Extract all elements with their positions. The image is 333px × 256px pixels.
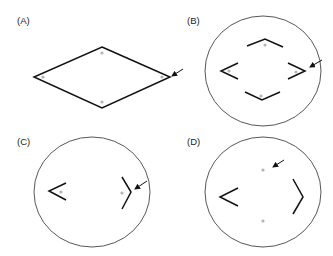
fixation-dot: [100, 100, 103, 103]
panel-c-shapes: [34, 137, 150, 247]
panel-b: (B): [187, 15, 322, 126]
panel-d: (D): [187, 136, 321, 247]
pointer-arrow-icon: [135, 181, 147, 189]
panel-a-shapes: [34, 47, 183, 108]
panel-c: (C): [17, 136, 150, 247]
panel-c-label: (C): [17, 136, 30, 147]
panel-d-label: (D): [187, 136, 200, 147]
panel-d-circle: [205, 137, 321, 247]
panel-a-label: (A): [17, 15, 30, 26]
panel-d-shapes: [205, 137, 321, 247]
fixation-dot: [41, 75, 44, 78]
fixation-dot: [261, 168, 264, 171]
fixation-dot: [259, 94, 262, 97]
fixation-dot: [261, 219, 264, 222]
panel-b-label: (B): [187, 15, 200, 26]
fixation-dot: [59, 190, 62, 193]
fixation-dot: [227, 69, 230, 72]
chevron-shape: [49, 183, 66, 200]
chevron-shape: [220, 188, 238, 206]
figure-canvas: (A) (B) (C) (D): [0, 0, 333, 256]
pointer-arrow-icon: [273, 160, 284, 167]
fixation-dot: [100, 51, 103, 54]
fixation-dot: [160, 75, 163, 78]
fixation-dot: [294, 70, 297, 73]
panel-b-shapes: [205, 16, 322, 126]
rhombus-shape: [34, 47, 170, 108]
panel-a: (A): [17, 15, 183, 108]
fixation-dot: [263, 43, 266, 46]
chevron-shape: [293, 179, 303, 214]
fixation-dot: [120, 191, 123, 194]
pointer-arrow-icon: [172, 69, 183, 76]
